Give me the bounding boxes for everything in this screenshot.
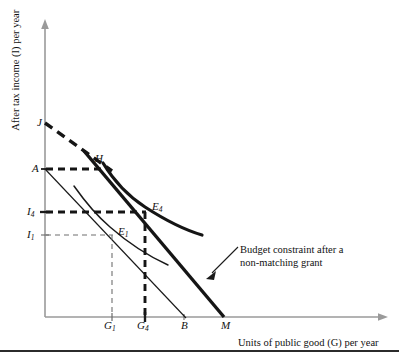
label-point-A: A: [32, 163, 39, 174]
label-point-G4-base: G: [137, 319, 145, 331]
annotation-arrowhead: [206, 271, 216, 280]
x-axis-title: Units of public good (G) per year: [238, 338, 379, 349]
label-point-I4: I4: [27, 206, 34, 217]
annotation-pointer-group: [206, 247, 238, 280]
original-budget-constraint-line: [45, 169, 186, 318]
label-point-E4-base: E: [152, 200, 159, 212]
label-point-G4-sub: 4: [145, 324, 149, 333]
annotation-line-2: non-matching grant: [240, 256, 392, 269]
label-point-H: H: [95, 153, 103, 164]
label-point-E1-base: E: [118, 225, 125, 237]
label-point-G1-base: G: [104, 319, 112, 331]
label-point-E4: E4: [152, 201, 162, 212]
label-point-I1-sub: 1: [31, 233, 35, 242]
annotation-leader-line: [212, 247, 238, 273]
grant-budget-constraint-group: [45, 123, 224, 317]
label-point-J: J: [37, 117, 42, 128]
y-axis-arrowhead: [41, 19, 49, 29]
label-point-G4: G4: [137, 320, 149, 331]
y-axis-title: After tax income (I) per year: [11, 5, 22, 135]
figure-container: After tax income (I) per year Units of p…: [0, 0, 399, 358]
label-point-G1-sub: 1: [112, 324, 116, 333]
guide-lines-group: [46, 169, 146, 315]
label-point-E4-sub: 4: [159, 205, 163, 214]
label-point-B: B: [181, 320, 188, 331]
diagram-canvas: [0, 0, 399, 358]
budget-constraint-annotation: Budget constraint after a non-matching g…: [240, 243, 392, 269]
label-point-M: M: [221, 320, 230, 331]
label-point-E1: E1: [118, 226, 128, 237]
annotation-line-1: Budget constraint after a: [240, 243, 392, 256]
label-point-E1-sub: 1: [125, 230, 129, 239]
label-point-I1: I1: [27, 229, 34, 240]
bottom-rule: [0, 350, 399, 352]
x-axis-arrowhead: [378, 313, 388, 321]
label-point-I4-sub: 4: [31, 210, 35, 219]
label-point-G1: G1: [104, 320, 116, 331]
